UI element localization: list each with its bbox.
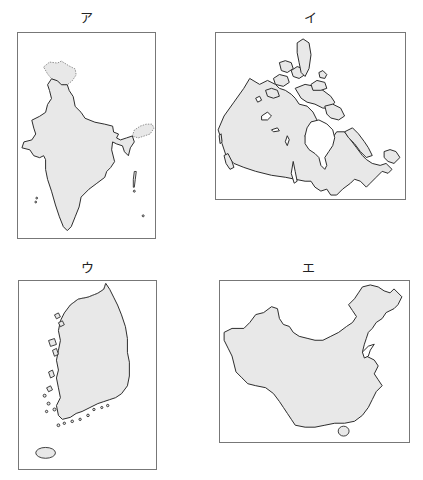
map-panel-china (219, 280, 410, 443)
panel-label-a: ア (66, 10, 106, 26)
map-panel-south-korea (18, 280, 157, 470)
panel-label-u: ウ (67, 260, 107, 276)
china-map (220, 281, 409, 442)
map-panel-canada (215, 32, 406, 200)
panel-label-e: エ (288, 260, 328, 276)
india-map (18, 33, 155, 238)
panel-label-i: イ (290, 10, 330, 26)
south-korea-map (19, 281, 156, 469)
canada-map (216, 33, 405, 199)
map-panel-india (17, 32, 156, 239)
